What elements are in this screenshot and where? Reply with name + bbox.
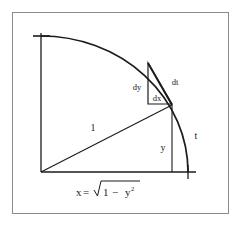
figure-border bbox=[13, 13, 229, 214]
equation-radicand-left: 1 bbox=[103, 186, 109, 198]
dx-label: dx bbox=[153, 93, 162, 103]
equation-radicand-exponent: 2 bbox=[131, 185, 134, 192]
figure-container: 1 y t dy dx dt x = 1 − y 2 bbox=[0, 0, 241, 226]
arc-length-label: t bbox=[195, 130, 198, 141]
dy-label: dy bbox=[133, 82, 142, 92]
equation-lhs: x bbox=[76, 186, 82, 198]
radius-label: 1 bbox=[91, 122, 96, 133]
dt-label: dt bbox=[172, 77, 179, 87]
equation-equals: = bbox=[83, 186, 89, 198]
ordinate-label: y bbox=[161, 142, 166, 153]
quarter-circle-diagram: 1 y t dy dx dt x = 1 − y 2 bbox=[0, 0, 241, 226]
equation-minus: − bbox=[112, 186, 118, 198]
